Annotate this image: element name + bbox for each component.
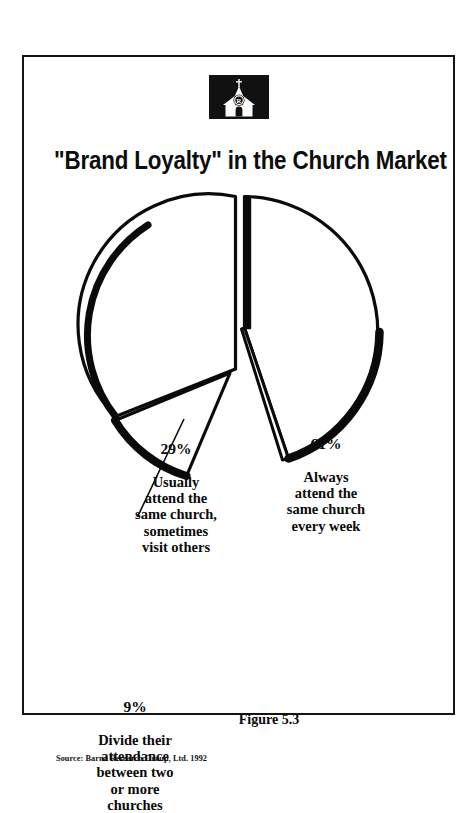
pie-label-text-always: Always attend the same church every week	[287, 469, 365, 534]
source-note: Source: Barna Research Group, Ltd. 1992	[56, 754, 207, 763]
figure-caption: Figure 5.3	[164, 712, 374, 728]
page-title: "Brand Loyalty" in the Church Market	[54, 145, 423, 176]
pie-percent-always: 61%	[256, 435, 396, 452]
church-icon: R	[209, 75, 269, 119]
pie-label-divide: 9% Divide their attendance between two o…	[60, 682, 210, 813]
pie-percent-usually: 29%	[102, 440, 250, 457]
pie-label-text-divide: Divide their attendance between two or m…	[97, 732, 174, 813]
pie-chart: 61% Always attend the same church every …	[24, 187, 457, 517]
logo-block: R	[24, 75, 453, 119]
pie-label-text-usually: Usually attend the same church, sometime…	[135, 474, 217, 555]
svg-text:R: R	[236, 97, 241, 104]
page-frame: R "Brand Loyalty" in the Church Market	[22, 55, 455, 715]
pie-label-usually: 29% Usually attend the same church, some…	[102, 424, 250, 555]
pie-label-always: 61% Always attend the same church every …	[256, 419, 396, 534]
